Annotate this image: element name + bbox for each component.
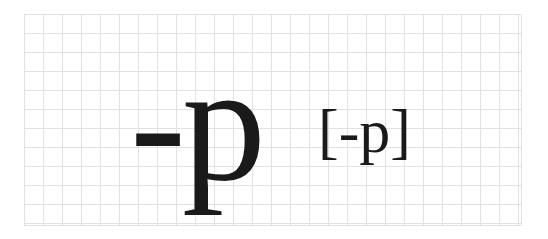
grid-background <box>24 14 522 226</box>
bracketed-notation: [-p] <box>318 100 411 162</box>
large-symbol: -p <box>130 38 262 206</box>
